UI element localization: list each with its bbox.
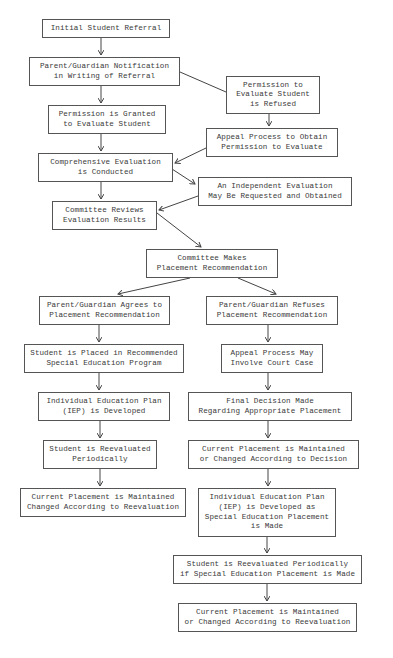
flowchart-node-n6: Comprehensive Evaluation is Conducted — [38, 153, 173, 182]
flowchart-node-n3: Permission to Evaluate Student is Refuse… — [226, 76, 320, 114]
flowchart-node-n4: Permission is Granted to Evaluate Studen… — [48, 105, 166, 134]
flowchart-node-n14: Individual Education Plan (IEP) is Devel… — [38, 392, 170, 421]
flowchart-node-n21: Current Placement is Maintained or Chang… — [178, 603, 357, 632]
flowchart-node-n20: Student is Reevaluated Periodically if S… — [173, 555, 362, 584]
flowchart-node-n7: An Independent Evaluation May Be Request… — [198, 177, 352, 206]
flowchart-node-n19: Individual Education Plan (IEP) is Devel… — [198, 488, 336, 537]
node-label: Appeal Process to Obtain Permission to E… — [217, 133, 328, 152]
arrow-n9-to-n10 — [118, 278, 190, 294]
node-label: An Independent Evaluation May Be Request… — [208, 182, 342, 201]
node-label: Parent/Guardian Refuses Placement Recomm… — [217, 301, 328, 320]
node-label: Committee Makes Placement Recommendation — [157, 254, 268, 273]
flowchart-node-n9: Committee Makes Placement Recommendation — [146, 249, 278, 278]
flowchart-node-n1: Initial Student Referral — [42, 19, 170, 38]
node-label: Appeal Process May Involve Court Case — [231, 349, 314, 368]
node-label: Parent/Guardian Agrees to Placement Reco… — [47, 301, 162, 320]
node-label: Individual Education Plan (IEP) is Devel… — [46, 397, 161, 416]
flowchart-node-n8: Committee Reviews Evaluation Results — [52, 201, 157, 230]
arrow-n8-to-n9 — [157, 213, 201, 247]
flowchart-node-n13: Appeal Process May Involve Court Case — [221, 344, 323, 373]
arrow-n5-to-n6 — [175, 148, 206, 163]
node-label: Final Decision Made Regarding Appropriat… — [199, 397, 342, 416]
flowchart-node-n2: Parent/Guardian Notification in Writing … — [29, 57, 180, 86]
node-label: Initial Student Referral — [51, 24, 162, 34]
node-label: Committee Reviews Evaluation Results — [63, 206, 146, 225]
node-label: Student is Reevaluated Periodically — [49, 445, 150, 464]
node-label: Student is Reevaluated Periodically if S… — [180, 560, 355, 579]
special-education-flowchart: Initial Student ReferralParent/Guardian … — [0, 0, 393, 658]
flowchart-node-n17: Current Placement is Maintained or Chang… — [188, 440, 359, 469]
node-label: Parent/Guardian Notification in Writing … — [40, 62, 169, 81]
node-label: Permission is Granted to Evaluate Studen… — [59, 110, 156, 129]
node-label: Student is Placed in Recommended Special… — [30, 349, 177, 368]
node-label: Individual Education Plan (IEP) is Devel… — [205, 493, 329, 531]
node-label: Current Placement is Maintained or Chang… — [200, 445, 347, 464]
flowchart-node-n18: Current Placement is Maintained Changed … — [20, 488, 186, 517]
flowchart-node-n10: Parent/Guardian Agrees to Placement Reco… — [39, 296, 170, 325]
flowchart-node-n15: Final Decision Made Regarding Appropriat… — [188, 392, 352, 421]
node-label: Permission to Evaluate Student is Refuse… — [236, 81, 310, 110]
flowchart-node-n12: Student is Placed in Recommended Special… — [24, 344, 184, 373]
node-label: Current Placement is Maintained or Chang… — [185, 608, 351, 627]
arrow-n6-to-n7 — [172, 169, 195, 184]
flowchart-node-n16: Student is Reevaluated Periodically — [43, 440, 157, 469]
connector-n2-to-n3 — [180, 72, 226, 92]
arrow-n9-to-n11 — [238, 278, 276, 294]
flowchart-node-n5: Appeal Process to Obtain Permission to E… — [206, 128, 338, 157]
node-label: Current Placement is Maintained Changed … — [27, 493, 179, 512]
flowchart-node-n11: Parent/Guardian Refuses Placement Recomm… — [206, 296, 338, 325]
arrow-n7-to-n8 — [159, 196, 198, 210]
node-label: Comprehensive Evaluation is Conducted — [50, 158, 161, 177]
